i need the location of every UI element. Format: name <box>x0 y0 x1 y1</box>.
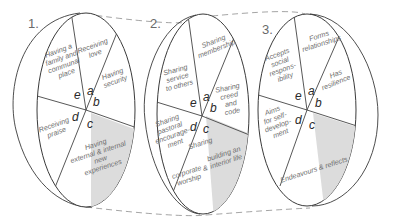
wheel-2-letter-e: e <box>190 96 197 110</box>
wheel-3-letter-c: c <box>309 118 315 132</box>
wheel-1-letter-e: e <box>74 88 81 102</box>
wheel-3-letter-d: d <box>295 113 302 127</box>
wheel-2-number: 2. <box>150 16 161 31</box>
wheel-1-letter-d: d <box>72 110 79 124</box>
three-wheels-diagram: 1. a b c d e Receiving love Having secur… <box>0 0 395 223</box>
wheel-3-letter-e: e <box>295 89 302 103</box>
wheel-3-letter-b: b <box>315 96 322 110</box>
wheel-3-letter-a: a <box>308 84 315 98</box>
wheel-2-letter-b: b <box>210 101 217 115</box>
wheel-1-letter-b: b <box>93 95 100 109</box>
wheel-2-letter-c: c <box>203 122 209 136</box>
wheel-3-number: 3. <box>262 22 273 37</box>
wheel-1-letter-c: c <box>87 117 93 131</box>
wheel-2-letter-a: a <box>203 90 210 104</box>
wheel-3: 3. a b c d e Forms relationships Has res… <box>255 8 378 215</box>
wheel-1-number: 1. <box>28 16 39 31</box>
wheel-1: 1. a b c d e Receiving love Having secur… <box>13 5 140 215</box>
wheel-2: 2. a b c d e Sharing membership Sharing … <box>144 8 252 220</box>
wheel-2-letter-d: d <box>190 120 197 134</box>
